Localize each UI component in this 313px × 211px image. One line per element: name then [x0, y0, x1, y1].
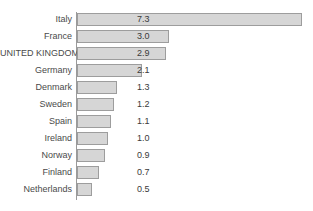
category-label: Spain [0, 114, 72, 129]
chart-row: Ireland1.0 [0, 131, 313, 148]
chart-row: Finland0.7 [0, 165, 313, 182]
bar [77, 30, 169, 43]
category-label: Netherlands [0, 182, 72, 197]
bar [77, 81, 117, 94]
category-label: UNITED KINGDOM [0, 46, 72, 61]
bar-value-label: 1.1 [137, 114, 150, 129]
bar [77, 166, 99, 179]
chart-row: UNITED KINGDOM2.9 [0, 46, 313, 63]
bar [77, 98, 114, 111]
chart-row: Norway0.9 [0, 148, 313, 165]
chart-row: Sweden1.2 [0, 97, 313, 114]
bar-value-label: 1.2 [137, 97, 150, 112]
bar [77, 132, 108, 145]
category-label: Norway [0, 148, 72, 163]
chart-row: Denmark1.3 [0, 80, 313, 97]
chart-row: France3.0 [0, 29, 313, 46]
bar-value-label: 0.9 [137, 148, 150, 163]
category-label: Italy [0, 12, 72, 27]
category-label: Finland [0, 165, 72, 180]
chart-row: Italy7.3 [0, 12, 313, 29]
bar-value-label: 0.5 [137, 182, 150, 197]
category-label: Germany [0, 63, 72, 78]
bar-value-label: 2.9 [137, 46, 150, 61]
bar [77, 115, 111, 128]
bar [77, 47, 166, 60]
bar-value-label: 7.3 [137, 12, 150, 27]
chart-row: Netherlands0.5 [0, 182, 313, 199]
bar [77, 13, 302, 26]
bar-value-label: 2.1 [137, 63, 150, 78]
category-label: Sweden [0, 97, 72, 112]
bar-chart: Italy7.3France3.0UNITED KINGDOM2.9German… [0, 0, 313, 211]
bar-value-label: 0.7 [137, 165, 150, 180]
bar-value-label: 3.0 [137, 29, 150, 44]
plot-area: Italy7.3France3.0UNITED KINGDOM2.9German… [0, 12, 313, 202]
chart-title [0, 0, 313, 1]
bar-value-label: 1.0 [137, 131, 150, 146]
bar-value-label: 1.3 [137, 80, 150, 95]
category-label: Ireland [0, 131, 72, 146]
chart-row: Germany2.1 [0, 63, 313, 80]
bar [77, 149, 105, 162]
category-label: Denmark [0, 80, 72, 95]
bar [77, 64, 142, 77]
chart-row: Spain1.1 [0, 114, 313, 131]
bar [77, 183, 92, 196]
category-label: France [0, 29, 72, 44]
